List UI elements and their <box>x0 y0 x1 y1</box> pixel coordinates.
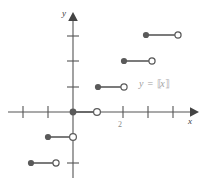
closed-endpoint-dot <box>28 160 34 166</box>
floor-bracket-close: ⟧ <box>165 78 168 89</box>
equation-operator: = <box>147 78 155 89</box>
open-endpoint-circle <box>149 58 155 64</box>
step-segment--3 <box>28 160 59 166</box>
open-endpoint-circle <box>53 160 59 166</box>
closed-endpoint-dot <box>143 32 149 38</box>
open-endpoint-circle <box>121 84 127 90</box>
closed-endpoint-dot <box>121 58 127 64</box>
step-function-curve <box>28 32 181 166</box>
axis-group <box>8 12 199 178</box>
closed-endpoint-dot <box>45 134 51 140</box>
step-segment-0 <box>70 109 101 116</box>
y-axis-label: y <box>62 9 66 18</box>
closed-endpoint-dot <box>95 84 101 90</box>
open-endpoint-circle <box>175 32 181 38</box>
function-equation-label: y = ⟦x⟧ <box>139 79 168 89</box>
equation-lhs: y <box>139 78 144 89</box>
open-endpoint-circle <box>70 134 77 141</box>
step-segment-2 <box>121 58 155 64</box>
step-segment-1 <box>95 84 127 90</box>
open-endpoint-circle <box>94 109 101 116</box>
graph-canvas <box>0 0 208 186</box>
x-axis-label: x <box>188 117 192 126</box>
closed-endpoint-dot <box>70 109 77 116</box>
y-axis-arrowhead <box>68 12 78 21</box>
step-function-figure: y x 2 y = ⟦x⟧ <box>0 0 208 186</box>
step-segment--2 <box>45 134 77 141</box>
step-segment-3 <box>143 32 181 38</box>
x-tick-label-2: 2 <box>118 121 122 129</box>
